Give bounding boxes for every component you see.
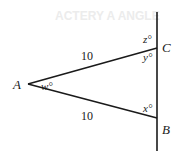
side-label-AC: 10 [81, 49, 93, 63]
point-label-B: B [162, 122, 170, 137]
angle-label-z: z° [142, 33, 152, 45]
angle-label-y: y° [142, 51, 153, 63]
point-label-A: A [12, 77, 21, 92]
bleed-through-text: ACTERY A ANGLE [55, 9, 160, 23]
triangle-diagram: ACTERY A ANGLE A C B 10 10 w° z° y° x° [0, 0, 179, 158]
angle-label-x: x° [142, 102, 153, 114]
angle-label-w: w° [41, 80, 53, 92]
point-label-C: C [162, 40, 171, 55]
side-label-AB: 10 [81, 109, 93, 123]
